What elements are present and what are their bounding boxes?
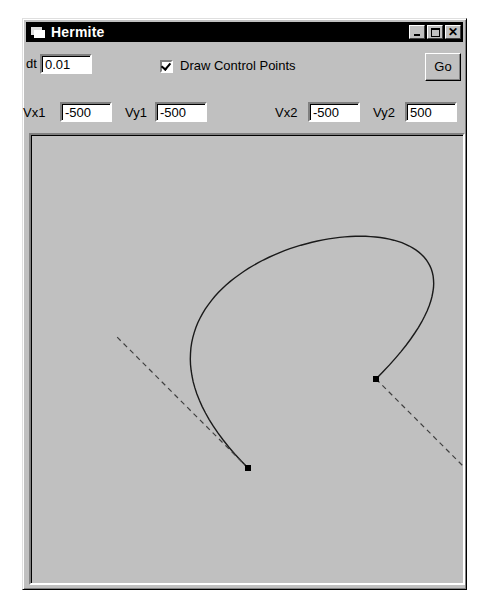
maximize-button[interactable]: [427, 25, 443, 39]
dt-label: dt: [26, 56, 37, 71]
hermite-curve: [190, 236, 433, 468]
drawing-canvas[interactable]: [29, 133, 465, 585]
go-button[interactable]: Go: [425, 53, 461, 81]
vx1-label: Vx1: [23, 105, 45, 120]
minimize-button[interactable]: [409, 25, 425, 39]
close-button[interactable]: ✕: [445, 25, 461, 39]
vx2-input[interactable]: [308, 102, 360, 122]
vy2-label: Vy2: [373, 105, 395, 120]
draw-control-points-checkbox[interactable]: [160, 60, 173, 73]
vy1-label: Vy1: [125, 105, 147, 120]
control-point-end[interactable]: [373, 376, 379, 382]
hermite-curve-plot: [31, 135, 463, 583]
dt-input[interactable]: [40, 54, 92, 74]
control-line-start: [116, 336, 249, 469]
control-point-start[interactable]: [245, 465, 251, 471]
hermite-window: Hermite ✕ dt Draw Control Points Go Vx1 …: [22, 18, 467, 590]
vy2-input[interactable]: [405, 102, 457, 122]
vx2-label: Vx2: [275, 105, 297, 120]
title-bar[interactable]: Hermite ✕: [26, 22, 463, 42]
close-icon: ✕: [448, 25, 458, 39]
draw-control-points-label[interactable]: Draw Control Points: [180, 58, 296, 73]
vx1-input[interactable]: [60, 102, 112, 122]
window-title: Hermite: [51, 24, 105, 40]
control-line-end: [376, 379, 463, 512]
vy1-input[interactable]: [155, 102, 207, 122]
app-icon: [30, 25, 46, 39]
